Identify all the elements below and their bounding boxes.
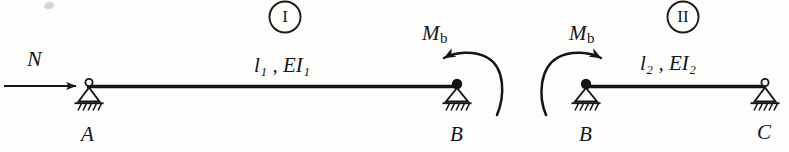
moment-label-2: Mb	[569, 23, 595, 46]
moment-label-1: Mb	[422, 23, 448, 46]
hinge-support-icon-b-right	[572, 79, 601, 111]
pin-support-icon-c	[751, 79, 780, 111]
beam-diagram-figure: N l₁ , EI₁ I Mb Mb l₂ , EI₂ II A B B C	[0, 0, 789, 152]
span-label-1: l₁ , EI₁	[254, 55, 310, 76]
node-label-a: A	[81, 124, 94, 145]
moment-label-1-main: M	[422, 21, 440, 45]
hinge-support-icon-b-left	[443, 79, 472, 111]
axial-force-label: N	[27, 48, 42, 70]
node-label-b-right: B	[579, 124, 592, 145]
moment-label-2-main: M	[569, 21, 587, 45]
pin-support-icon-a	[75, 79, 104, 111]
span-label-2: l₂ , EI₂	[640, 53, 696, 74]
node-label-b-left: B	[450, 124, 463, 145]
segment-badge-label-1: I	[268, 0, 302, 34]
moment-label-2-sub: b	[587, 30, 595, 46]
segment-badge-label-2: II	[666, 0, 700, 34]
moment-label-1-sub: b	[440, 30, 448, 46]
node-label-c: C	[757, 122, 771, 143]
